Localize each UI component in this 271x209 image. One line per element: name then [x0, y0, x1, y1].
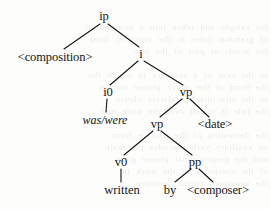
tree-node-composer: <composer> — [187, 184, 249, 197]
tree-node-i0: i0 — [103, 86, 113, 99]
tree-edge-i0-to-was-were — [106, 99, 107, 112]
tree-edge-ip-to-composition — [64, 24, 100, 49]
tree-node-date: <date> — [198, 118, 232, 131]
tree-edge-ip-to-i — [108, 24, 139, 47]
tree-node-i: i — [139, 48, 142, 61]
tree-edge-vp-outer-to-vp-inner — [160, 99, 182, 117]
tree-edges — [0, 0, 271, 209]
tree-edge-pp-to-composer — [199, 169, 213, 182]
tree-node-ip: ip — [99, 10, 109, 23]
tree-node-pp: pp — [189, 156, 202, 169]
tree-node-by: by — [164, 184, 177, 197]
tree-node-vp-outer: vp — [180, 86, 193, 99]
tree-edge-i-to-i0 — [110, 61, 138, 85]
tree-edge-vp-inner-to-v0 — [124, 131, 153, 155]
tree-node-was-were: was/were — [83, 114, 128, 126]
tree-edge-vp-inner-to-pp — [161, 131, 192, 155]
tree-edge-i-to-vp-outer — [144, 61, 183, 85]
tree-node-vp-inner: vp — [151, 118, 164, 131]
tree-edge-pp-to-by — [175, 169, 191, 182]
tree-node-written: written — [104, 184, 139, 197]
syntax-tree-figure: the sample and taken into a new set ofof… — [0, 0, 271, 209]
tree-node-v0: v0 — [115, 156, 128, 169]
tree-edge-vp-outer-to-date — [190, 99, 209, 117]
tree-node-composition: <composition> — [18, 51, 93, 64]
